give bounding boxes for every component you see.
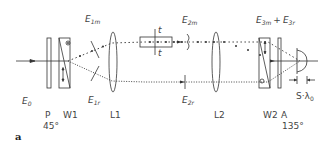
label-analyzer: A [281,110,288,120]
panel-label: a [15,131,22,142]
label-e1r: E1r [88,95,101,106]
label-e2r: E2r [182,95,195,106]
optical-setup-diagram: E0 E1m E1r E2m E2r E3m+E3r t t S·λ0 P 45… [0,0,335,144]
analyzer [278,38,281,88]
beam-r [68,61,300,82]
polarizer [47,38,51,88]
lens-2 [212,32,220,92]
label-w1: W1 [63,110,78,120]
wollaston-prism-2 [259,38,270,88]
label-e2m: E2m [182,15,198,26]
label-e3m-plus-e3r: E3m+E3r [256,15,295,26]
label-e0: E0 [22,96,32,107]
label-analyzer-angle: 135° [282,121,304,131]
label-l1: L1 [110,110,121,120]
label-e1m: E1m [85,14,101,25]
label-shift: S·λ0 [296,91,314,102]
beam-arrows [177,41,275,84]
beam-m-dots [79,41,261,57]
input-beam [16,60,68,63]
label-l2: L2 [214,110,225,120]
label-w2: W2 [263,110,278,120]
wollaston-prism-1 [59,38,70,88]
lens-1 [109,32,117,92]
label-t-bottom: t [158,48,162,58]
label-polarizer: P [45,110,51,120]
label-polarizer-angle: 45° [43,121,59,131]
label-t-top: t [158,25,162,35]
